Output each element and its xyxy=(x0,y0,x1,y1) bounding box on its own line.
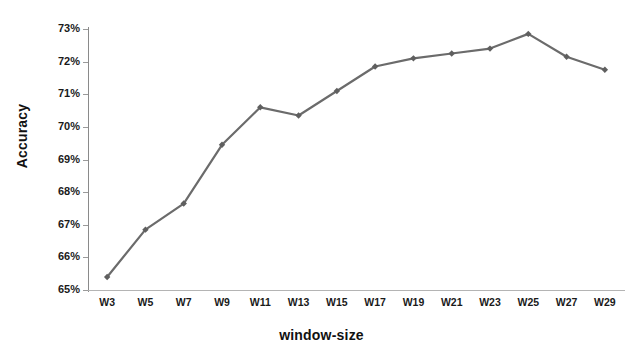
data-point-marker xyxy=(602,67,608,73)
accuracy-markers xyxy=(104,31,608,280)
x-axis-title: window-size xyxy=(0,327,643,343)
data-point-marker xyxy=(487,45,493,51)
accuracy-line xyxy=(107,34,605,277)
data-point-marker xyxy=(449,50,455,56)
data-point-marker xyxy=(410,55,416,61)
x-tick-label: W29 xyxy=(582,297,628,308)
chart-figure: Accuracy 73%72%71%70%69%68%67%66%65% W3W… xyxy=(0,0,643,357)
